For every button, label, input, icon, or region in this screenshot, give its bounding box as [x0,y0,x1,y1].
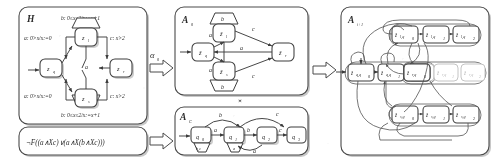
state-q0: q 0 [191,127,213,145]
product-arrow-shape [313,62,336,78]
product-node-zr-q2-sub2: 2 [479,74,481,79]
state-zq-sub: q [53,69,55,74]
flow-trapezoid-top [72,18,100,28]
product-node-zs-q2-sub2: 2 [473,116,475,121]
state-q0-sub: 0 [202,137,204,142]
state-zl-label: z [81,34,85,41]
state-zr-label: z [116,65,120,72]
loop-q1-label: a [233,146,235,151]
product-node-zr-q2: ẑ r,q 2 [461,64,485,81]
edge-label-c-lower: c [252,73,255,79]
formula-arrow-shape [150,133,173,149]
alpha0-arrow-shape [150,60,173,76]
state-zq-hat: ẑ q [192,43,214,61]
abstraction-trapezoid-top [210,13,238,24]
product-node-zs-q1-sub2: 1 [443,116,445,121]
connector-formula-to-buchi [150,133,173,149]
state-zq-hat-sub: q [205,53,207,58]
product-node-zq-q0-sub2: 0 [368,74,370,79]
panel-hybrid-system: H b: 0≤x≤2/x:=x+1 b: 0≤x≤2/x:=x+1 a: 0>x… [19,7,149,126]
state-zr-hat: ẑ r [272,43,294,61]
panel-ltl-formula: ¬F((a∧Xc)∨(a∧X(b∧Xc))) [19,127,149,157]
product-node-zq-q1: ẑ q,q 1 [378,64,404,81]
refined-sub: i+1 [357,22,363,27]
state-q2-sub: 2 [268,137,270,142]
product-node-zs-q1: ẑ s,q 1 [423,106,449,123]
state-q2: q 2 [257,127,279,145]
abstraction-loop-top-label: b [221,16,224,22]
edge-label-back-a: a [253,148,256,154]
abstraction-trapezoid-bottom [210,80,238,91]
state-zr: z r [110,59,134,79]
guard-center: a [85,64,88,70]
panel-refined: A i+1 ẑ l,q 0 ẑ l,q 1 ẑ l,q 2 [336,7,491,157]
edge-label-a-upper: a [209,32,212,38]
state-zs: z s [75,89,99,109]
edge-label-q2q3: c [279,127,282,133]
panel-abstraction: A 0 b b ẑ q ẑ l ẑ s ẑ r a a [175,7,310,97]
alpha0-sub: 0 [157,57,159,62]
product-node-zr-q1: ẑ r,q 1 [434,64,458,81]
edge-label-arc-b: b [219,112,222,118]
guard-left-lower: a: 0>x/x:=0 [24,93,52,99]
guard-right-lower: c: x>2 [110,93,125,99]
state-zs-label: z [81,95,85,102]
guard-bottom: b: 0≤x≤2/x:=x+1 [61,112,100,118]
state-q3-sub: 3 [298,137,300,142]
guard-right-upper: c: x>2 [110,35,125,41]
buchi-sub: C [189,119,192,124]
state-zq: z q [40,59,64,79]
state-zq-label: z [46,65,50,72]
automaton-pipeline-figure: H b: 0≤x≤2/x:=x+1 b: 0≤x≤2/x:=x+1 a: 0>x… [0,0,497,163]
product-node-zl-q1-sub2: 1 [443,36,445,41]
guard-left-upper: a: 0>x/x:=0 [24,35,52,41]
state-zr-hat-label: ẑ [278,49,282,56]
product-node-zl-q0-sub2: 0 [412,36,414,41]
edge-label-c-upper: c [252,26,255,32]
product-node-zs-q0: ẑ s,q 0 [392,106,418,123]
alpha0-label: α [150,50,155,60]
state-zl-hat-label: ẑ [219,30,223,37]
figure-canvas: H b: 0≤x≤2/x:=x+1 b: 0≤x≤2/x:=x+1 a: 0>x… [0,0,497,163]
state-zl-hat: ẑ l [213,24,235,42]
product-symbol: × [238,97,242,105]
hybrid-system-label: H [26,14,35,24]
state-zq-hat-label: ẑ [198,49,202,56]
product-node-zl-q0: ẑ l,q 0 [392,26,418,43]
abstraction-label: A [181,15,188,25]
state-zs-hat-label: ẑ [219,68,223,75]
refined-label: A [347,15,354,25]
abstraction-loop-bottom-label: b [221,84,224,90]
state-zs-hat: ẑ s [213,62,235,80]
state-zl: z l [75,28,99,48]
ltl-formula-text: ¬F((a∧Xc)∨(a∧X(b∧Xc))) [26,139,105,147]
product-node-zl-q2-sub2: 2 [473,36,475,41]
product-node-zq-q1-sub2: 1 [398,74,400,79]
state-q1: q 1 [224,127,246,145]
product-node-zs-q2: ẑ s,q 2 [453,106,479,123]
buchi-label: A [179,112,186,122]
edge-label-q0q1: a [214,127,217,133]
product-node-zr-q1-sub2: 1 [452,74,454,79]
edge-label-a-center: a [240,45,243,51]
abstraction-sub: 0 [191,22,193,27]
product-node-zl-q2: ẑ l,q 2 [453,26,479,43]
state-q1-sub: 1 [235,137,237,142]
product-node-zl-q1: ẑ l,q 1 [423,26,449,43]
edge-label-q1q2: b [247,127,250,133]
product-node-zq-q0: ẑ q,q 0 [348,64,374,81]
connector-alpha0: α 0 [150,50,173,76]
connector-product-to-refined [313,62,336,78]
product-node-zs-q0-sub2: 0 [412,116,414,121]
edge-label-arc-c: c [276,111,279,117]
state-q3: q 3 [287,127,306,143]
panel-buchi: A C q 0 q 1 q 2 q 3 b,c a [175,107,310,157]
edge-label-a-lower: a [209,67,212,73]
